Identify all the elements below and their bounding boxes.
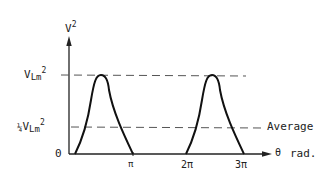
pulse-1 <box>75 75 133 154</box>
peak-exponent: 2 <box>41 66 46 75</box>
x-tick-0: 0 <box>55 148 62 159</box>
y-axis-symbol: V <box>65 22 72 35</box>
x-tick-3pi: 3π <box>235 160 247 170</box>
pulse-2 <box>186 75 244 154</box>
x-tick-2pi: 2π <box>181 160 193 170</box>
average-subscript: Lm <box>29 124 40 134</box>
average-exponent: 2 <box>40 118 45 127</box>
x-axis-unit: rad. <box>290 148 317 159</box>
x-tick-pi: π <box>128 160 133 169</box>
peak-subscript: Lm <box>31 72 42 82</box>
average-level-line <box>71 127 264 128</box>
y-axis-exponent: 2 <box>72 20 77 29</box>
x-axis-arrow-icon <box>262 151 272 156</box>
average-annotation: Average <box>267 121 313 132</box>
peak-symbol: V <box>24 68 31 81</box>
average-level-label: ¼VLm2 <box>17 119 45 134</box>
x-axis-symbol: θ <box>275 148 281 158</box>
y-axis-label: V2 <box>65 21 76 34</box>
y-axis-arrow-icon <box>66 36 71 46</box>
peak-level-label: VLm2 <box>24 67 46 82</box>
peak-level-line <box>61 75 246 76</box>
